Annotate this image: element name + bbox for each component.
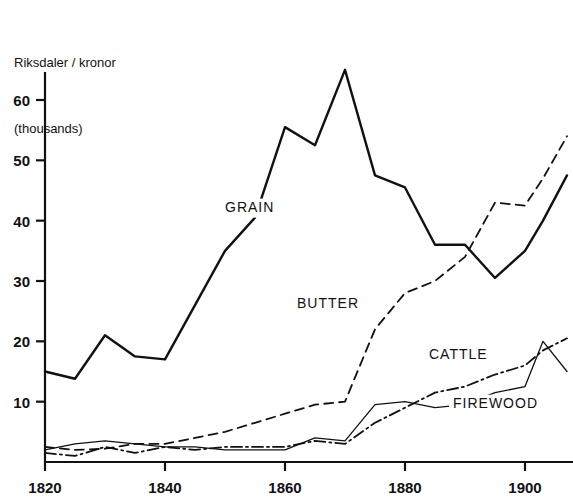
x-tick-label: 1840 — [148, 479, 181, 496]
series-label-firewood: FIREWOOD — [453, 395, 538, 411]
series-label-grain: GRAIN — [225, 199, 274, 215]
y-tick-label: 60 — [13, 92, 30, 109]
x-tick-label: 1860 — [268, 479, 301, 496]
y-tick-label: 20 — [13, 333, 30, 350]
y-tick-label: 40 — [13, 213, 30, 230]
series-line-grain — [45, 70, 567, 379]
x-tick-label: 1880 — [388, 479, 421, 496]
series-label-cattle: CATTLE — [429, 346, 488, 362]
x-tick-label: 1900 — [508, 479, 541, 496]
chart-container: Riksdaler / kronor (thousands) 102030405… — [0, 0, 573, 499]
series-labels: GRAINBUTTERCATTLEFIREWOOD — [221, 199, 541, 414]
y-tick-label: 50 — [13, 152, 30, 169]
line-chart-plot: 10203040506018201840186018801900 GRAINBU… — [0, 0, 573, 499]
x-tick-label: 1820 — [28, 479, 61, 496]
y-tick-label: 30 — [13, 273, 30, 290]
series-label-butter: BUTTER — [297, 295, 359, 311]
y-tick-label: 10 — [13, 394, 30, 411]
